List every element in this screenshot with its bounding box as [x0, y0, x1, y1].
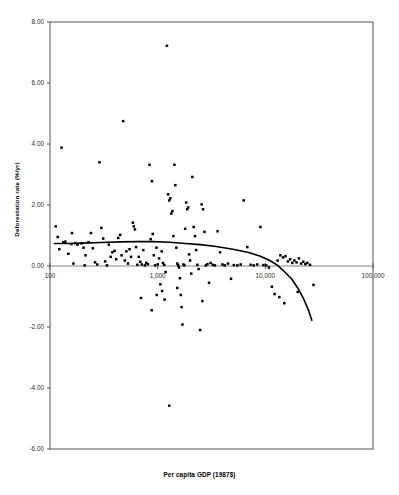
svg-text:0.00: 0.00	[32, 262, 45, 269]
plot-frame	[50, 22, 373, 449]
svg-text:-6.00: -6.00	[29, 445, 44, 452]
x-axis-label: Per capita GDP (1987$)	[0, 471, 399, 478]
svg-text:100,000: 100,000	[361, 272, 385, 279]
svg-text:4.00: 4.00	[32, 140, 45, 147]
svg-text:1,000: 1,000	[150, 272, 166, 279]
scatter-plot: -6.00-4.00-2.000.002.004.006.008.00 1001…	[0, 0, 399, 495]
data-points	[54, 45, 314, 407]
chart-figure: -6.00-4.00-2.000.002.004.006.008.00 1001…	[0, 0, 399, 495]
svg-text:10,000: 10,000	[256, 272, 276, 279]
y-axis-label: Deforestation rate (%/yr)	[13, 140, 20, 260]
svg-text:8.00: 8.00	[32, 18, 45, 25]
svg-text:100: 100	[45, 272, 56, 279]
svg-text:2.00: 2.00	[32, 201, 45, 208]
y-axis-ticks: -6.00-4.00-2.000.002.004.006.008.00	[29, 18, 50, 452]
svg-text:6.00: 6.00	[32, 79, 45, 86]
svg-text:-2.00: -2.00	[29, 323, 44, 330]
trend-curve	[54, 242, 311, 321]
svg-text:-4.00: -4.00	[29, 384, 44, 391]
